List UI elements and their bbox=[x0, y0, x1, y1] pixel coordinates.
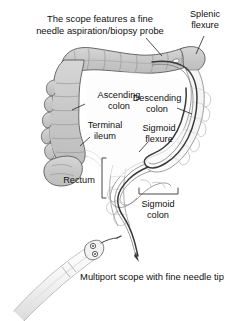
label-sigmoid-colon-line2: colon bbox=[147, 210, 169, 220]
illustration-figure: The scope features a fine needle aspirat… bbox=[0, 0, 240, 321]
label-splenic-flexure-line2: flexure bbox=[191, 20, 219, 30]
label-terminal-ileum-line1: Terminal bbox=[88, 120, 123, 130]
label-splenic-flexure-line1: Splenic bbox=[190, 9, 221, 19]
colon-scope-diagram: The scope features a fine needle aspirat… bbox=[0, 0, 240, 321]
caption-top-line1: The scope features a fine bbox=[47, 13, 153, 24]
label-sigmoid-colon-line1: Sigmoid bbox=[141, 199, 174, 209]
label-terminal-ileum-line2: ileum bbox=[94, 131, 116, 141]
label-sigmoid-flexure-line2: flexure bbox=[145, 134, 173, 144]
label-descending-colon-line1: Descending bbox=[133, 93, 182, 103]
label-sigmoid-flexure-line1: Sigmoid bbox=[142, 123, 175, 133]
caption-bottom-line1: Multiport scope with fine needle tip bbox=[80, 271, 224, 282]
label-rectum: Rectum bbox=[63, 175, 95, 185]
label-descending-colon-line2: colon bbox=[146, 104, 168, 114]
scope-port-1-lumen bbox=[92, 245, 94, 247]
scope-port-2-lumen bbox=[94, 253, 96, 255]
caption-top-line2: needle aspiration/biopsy probe bbox=[36, 25, 164, 36]
label-ascending-colon-line2: colon bbox=[108, 101, 130, 111]
